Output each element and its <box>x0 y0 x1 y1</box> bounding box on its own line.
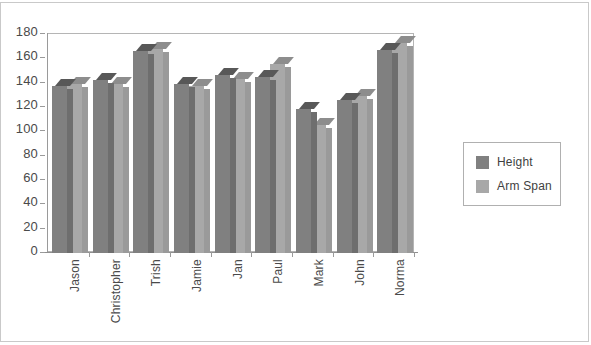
y-axis-tick-mark <box>40 82 45 83</box>
chart-screenshot: 180160140120100806040200 JasonChristophe… <box>0 0 591 345</box>
bar-top <box>111 77 132 84</box>
bar-side <box>82 87 88 253</box>
x-axis-tick-label: Jamie <box>190 259 204 292</box>
y-axis-tick-label: 160 <box>16 48 38 63</box>
bars-layer <box>48 33 414 253</box>
y-axis-tick-mark <box>40 179 45 180</box>
bar <box>377 50 392 253</box>
bar-face <box>296 109 311 253</box>
bar-face <box>377 50 392 253</box>
bar-side <box>326 128 332 253</box>
bar-top <box>273 57 294 64</box>
y-axis-tick-label: 140 <box>16 73 38 88</box>
x-axis-tick-mark <box>333 252 334 257</box>
x-axis-tick-label: Jan <box>231 259 245 279</box>
bar-side <box>108 83 114 253</box>
bar-group <box>93 33 129 253</box>
bar-top <box>192 79 213 86</box>
bar-side <box>148 54 154 253</box>
bar-side <box>163 52 169 253</box>
bar-side <box>189 87 195 253</box>
bar-group <box>133 33 169 253</box>
bar-face <box>174 84 189 253</box>
bar-side <box>285 67 291 253</box>
y-axis-tick-label: 40 <box>23 194 38 209</box>
x-axis-tick-mark <box>89 252 90 257</box>
bar-side <box>352 103 358 253</box>
x-axis-tick-mark <box>292 252 293 257</box>
bar-side <box>230 78 236 253</box>
x-axis-tick-label: Mark <box>312 259 326 286</box>
bar-group <box>296 33 332 253</box>
bar-face <box>133 51 148 253</box>
chart-legend: HeightArm Span <box>463 142 561 206</box>
bar-group <box>255 33 291 253</box>
x-axis-tick-label: Trish <box>149 259 163 286</box>
x-axis-tick-label: John <box>353 259 367 286</box>
bar-face <box>93 80 108 253</box>
bar <box>337 100 352 253</box>
bar-top <box>299 102 320 109</box>
bar <box>52 86 67 253</box>
bar-side <box>392 53 398 253</box>
x-axis-tick-label: Norma <box>393 259 407 296</box>
bar <box>215 75 230 253</box>
bar <box>174 84 189 253</box>
bar-face <box>255 77 270 253</box>
legend-swatch-icon <box>476 180 489 193</box>
bar-group <box>174 33 210 253</box>
y-axis-tick-label: 180 <box>16 24 38 39</box>
y-axis-tick-label: 80 <box>23 146 38 161</box>
x-axis-tick-mark <box>170 252 171 257</box>
y-axis-tick-mark <box>40 252 45 253</box>
y-axis-tick-label: 20 <box>23 219 38 234</box>
y-axis-tick-mark <box>40 203 45 204</box>
bar-side <box>367 99 373 253</box>
x-axis-tick-mark <box>251 252 252 257</box>
bar-group <box>337 33 373 253</box>
y-axis-tick-mark <box>40 155 45 156</box>
y-axis-tick-label: 0 <box>31 243 38 258</box>
y-axis-tick-label: 100 <box>16 121 38 136</box>
x-axis-tick-label: Christopher <box>109 259 123 323</box>
bar-face <box>215 75 230 253</box>
bar-side <box>204 89 210 253</box>
legend-label: Height <box>497 155 533 169</box>
x-axis-tick-mark <box>414 252 415 257</box>
y-axis-tick-mark <box>40 228 45 229</box>
bar-side <box>270 80 276 253</box>
x-axis-tick-mark <box>211 252 212 257</box>
legend-swatch-icon <box>476 156 489 169</box>
y-axis-tick-mark <box>40 57 45 58</box>
bar-side <box>311 112 317 253</box>
y-axis-tick-mark <box>40 130 45 131</box>
x-axis-tick-label: Paul <box>271 259 285 284</box>
bar-side <box>67 89 73 253</box>
bar-top <box>233 72 254 79</box>
bar-side <box>245 82 251 253</box>
y-axis-tick-label: 120 <box>16 97 38 112</box>
bar <box>296 109 311 253</box>
legend-item: Height <box>476 155 533 169</box>
bar <box>255 77 270 253</box>
bar-face <box>337 100 352 253</box>
bar-top <box>395 36 416 43</box>
legend-item: Arm Span <box>476 179 552 193</box>
bar-side <box>407 46 413 253</box>
y-axis-tick-label: 60 <box>23 170 38 185</box>
x-axis-tick-mark <box>373 252 374 257</box>
bar-group <box>377 33 413 253</box>
bar-group <box>215 33 251 253</box>
x-axis-tick-label: Jason <box>68 259 82 292</box>
legend-label: Arm Span <box>497 179 552 193</box>
bar-top <box>314 118 335 125</box>
y-axis-tick-mark <box>40 33 45 34</box>
bar-chart: 180160140120100806040200 JasonChristophe… <box>0 0 430 345</box>
bar-side <box>123 87 129 253</box>
y-axis-tick-mark <box>40 106 45 107</box>
bar-face <box>52 86 67 253</box>
bar <box>133 51 148 253</box>
x-axis-tick-mark <box>129 252 130 257</box>
bar-group <box>52 33 88 253</box>
bar <box>93 80 108 253</box>
